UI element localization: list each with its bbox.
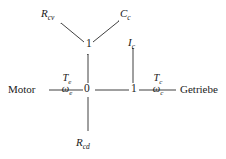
bond-label-motor-effort: Te: [52, 72, 82, 83]
element-resistor-cv: Rcv: [41, 8, 54, 19]
element-resistor-cd-symbol: R: [76, 136, 83, 148]
element-resistor-cv-subscript: cv: [48, 13, 55, 22]
element-resistor-cd-subscript: cd: [83, 142, 90, 151]
bond-label-motor: Te ωe: [52, 72, 82, 94]
bond-line-top-one-to-cc: [93, 21, 119, 42]
bond-graph-diagram: Motor Getriebe 0 1 1 Rcv Cc Ic Rcd Te ωe…: [0, 0, 226, 159]
element-inertia-c-subscript: c: [132, 42, 135, 51]
junction-one-main: 1: [131, 83, 137, 95]
element-inertia-c: Ic: [128, 37, 135, 48]
bond-lines-layer: [0, 0, 226, 159]
bond-label-getriebe: Tc ωc: [143, 72, 173, 94]
element-resistor-cv-symbol: R: [41, 7, 48, 19]
bond-line-top-one-to-rcv: [61, 23, 84, 42]
junction-one-top: 1: [86, 38, 92, 50]
bond-label-getriebe-flow: ωc: [143, 83, 173, 94]
bond-label-getriebe-effort: Tc: [143, 72, 173, 83]
bond-label-motor-flow: ωe: [52, 83, 82, 94]
element-capacitor-c: Cc: [120, 8, 131, 19]
terminal-motor: Motor: [8, 84, 36, 95]
terminal-getriebe: Getriebe: [180, 84, 218, 95]
junction-zero: 0: [84, 83, 90, 95]
element-resistor-cd: Rcd: [76, 137, 90, 148]
element-capacitor-c-subscript: c: [127, 13, 130, 22]
